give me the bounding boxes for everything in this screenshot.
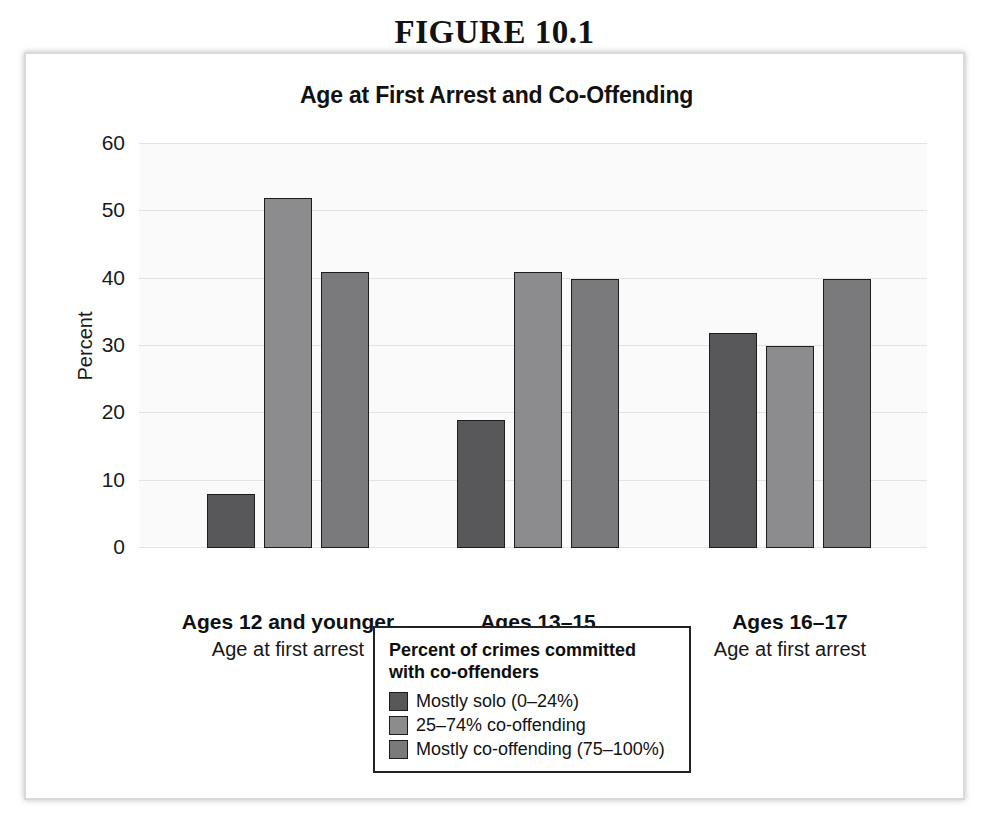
y-tick-label: 60 (102, 131, 125, 155)
y-tick-label: 40 (102, 266, 125, 290)
bar[interactable] (457, 420, 505, 548)
y-tick-label: 50 (102, 198, 125, 222)
legend-entry[interactable]: Mostly co-offending (75–100%) (389, 739, 677, 760)
y-tick-label: 30 (102, 333, 125, 357)
bar[interactable] (766, 346, 814, 548)
legend-label: 25–74% co-offending (416, 715, 586, 736)
bar[interactable] (514, 272, 562, 548)
y-tick-label: 20 (102, 400, 125, 424)
y-tick-label: 0 (113, 535, 125, 559)
legend-title: Percent of crimes committed with co-offe… (389, 639, 677, 684)
bar[interactable] (321, 272, 369, 548)
figure-number: FIGURE 10.1 (0, 14, 989, 51)
legend-entries: Mostly solo (0–24%)25–74% co-offendingMo… (389, 691, 677, 760)
plot-area: Percent 0102030405060 (139, 144, 927, 548)
bar-group (709, 144, 871, 548)
y-axis-title: Percent (74, 312, 97, 381)
legend-label: Mostly co-offending (75–100%) (416, 739, 665, 760)
legend-swatch (389, 740, 408, 759)
legend-label: Mostly solo (0–24%) (416, 691, 579, 712)
legend-swatch (389, 692, 408, 711)
legend-entry[interactable]: Mostly solo (0–24%) (389, 691, 677, 712)
figure-panel: Age at First Arrest and Co-Offending Per… (24, 52, 965, 800)
bar[interactable] (823, 279, 871, 548)
y-tick-label: 10 (102, 468, 125, 492)
legend: Percent of crimes committed with co-offe… (373, 626, 691, 773)
bar[interactable] (571, 279, 619, 548)
bar[interactable] (264, 198, 312, 548)
legend-entry[interactable]: 25–74% co-offending (389, 715, 677, 736)
bar[interactable] (207, 494, 255, 548)
legend-swatch (389, 716, 408, 735)
chart-title: Age at First Arrest and Co-Offending (26, 82, 967, 109)
bar[interactable] (709, 333, 757, 548)
bar-group (207, 144, 369, 548)
bar-group (457, 144, 619, 548)
